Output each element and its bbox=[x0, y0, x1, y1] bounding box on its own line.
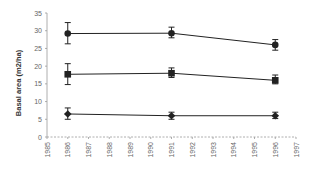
square-marker bbox=[272, 77, 279, 84]
y-tick-label: 25 bbox=[34, 45, 42, 52]
x-tick-label: 1997 bbox=[293, 142, 300, 158]
x-tick-label: 1991 bbox=[168, 142, 175, 158]
y-tick-label: 35 bbox=[34, 10, 42, 17]
x-tick-label: 1989 bbox=[127, 142, 134, 158]
y-tick-label: 10 bbox=[34, 98, 42, 105]
y-tick-label: 30 bbox=[34, 27, 42, 34]
x-tick-label: 1985 bbox=[44, 142, 51, 158]
diamond-marker bbox=[64, 110, 72, 118]
y-axis-title: Basal area (m2/ha) bbox=[14, 49, 23, 116]
series-2 bbox=[64, 64, 278, 85]
series-layer bbox=[64, 23, 279, 120]
circle-marker bbox=[168, 30, 175, 37]
circle-marker bbox=[272, 42, 279, 49]
x-tick-label: 1994 bbox=[230, 142, 237, 158]
square-marker bbox=[168, 70, 175, 77]
basal-area-chart: 05101520253035 1985198619871988198919901… bbox=[0, 0, 317, 171]
x-tick-label: 1996 bbox=[272, 142, 279, 158]
x-tick-label: 1992 bbox=[189, 142, 196, 158]
y-tick-label: 0 bbox=[38, 134, 42, 141]
square-marker bbox=[64, 71, 71, 78]
diamond-marker bbox=[168, 112, 176, 120]
series-1 bbox=[64, 23, 278, 51]
y-tick-label: 20 bbox=[34, 63, 42, 70]
y-tick-label: 5 bbox=[38, 116, 42, 123]
circle-marker bbox=[64, 30, 71, 37]
series-3 bbox=[64, 108, 279, 120]
x-axis: 1985198619871988198919901991199219931994… bbox=[44, 137, 300, 158]
y-axis: 05101520253035 bbox=[34, 10, 47, 141]
x-tick-label: 1988 bbox=[106, 142, 113, 158]
x-tick-label: 1986 bbox=[64, 142, 71, 158]
x-tick-label: 1995 bbox=[251, 142, 258, 158]
x-tick-label: 1993 bbox=[210, 142, 217, 158]
y-tick-label: 15 bbox=[34, 80, 42, 87]
x-tick-label: 1990 bbox=[147, 142, 154, 158]
x-tick-label: 1987 bbox=[85, 142, 92, 158]
